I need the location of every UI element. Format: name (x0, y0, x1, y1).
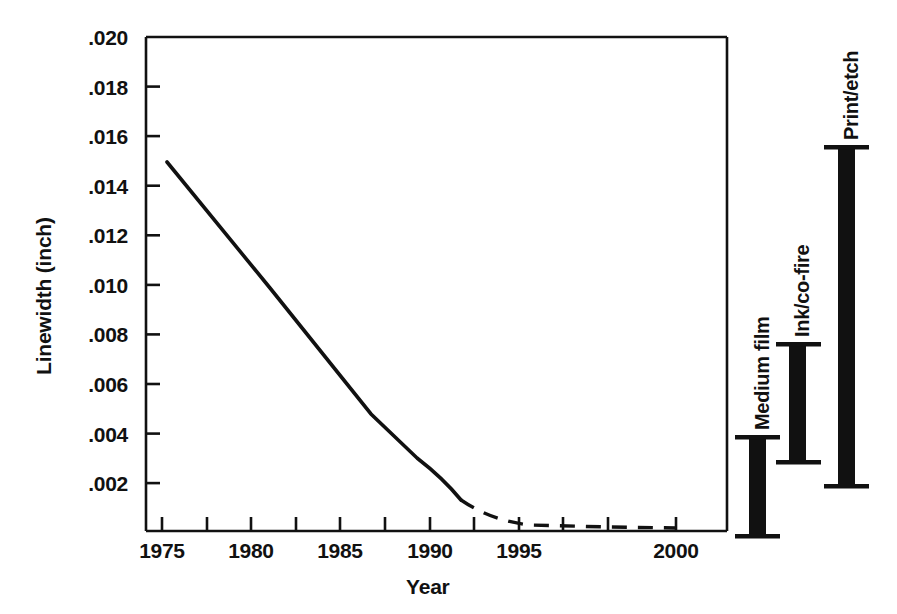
range-bar-label-medium-film: Medium film (751, 317, 774, 430)
y-tick-label: .002 (56, 472, 128, 496)
range-bar-label-ink-co-fire: Ink/co-fire (791, 245, 814, 337)
y-axis-title: Linewidth (inch) (32, 217, 56, 375)
x-axis-ticks (162, 517, 676, 531)
x-tick-label: 1990 (395, 539, 465, 563)
y-tick-label: .004 (56, 423, 128, 447)
y-tick-label: .008 (56, 323, 128, 347)
x-axis-title: Year (406, 575, 450, 599)
x-tick-label: 1995 (484, 539, 554, 563)
x-tick-label: 2000 (641, 539, 711, 563)
chart-canvas (0, 0, 897, 614)
x-tick-label: 1980 (216, 539, 286, 563)
plot-frame (146, 37, 727, 531)
y-tick-label: .020 (56, 26, 128, 50)
series-dashed-line (461, 500, 676, 528)
y-tick-label: .006 (56, 373, 128, 397)
range-bar-print-etch (824, 145, 869, 489)
range-bar-ink-co-fire (776, 342, 821, 465)
y-tick-label: .016 (56, 125, 128, 149)
x-tick-label: 1985 (305, 539, 375, 563)
y-axis-ticks (146, 87, 160, 484)
range-bar-label-print-etch: Print/etch (840, 51, 863, 140)
y-tick-label: .010 (56, 274, 128, 298)
chart-figure: .020 .018 .016 .014 .012 .010 .008 .006 … (0, 0, 897, 614)
range-bar-medium-film (735, 435, 780, 539)
y-tick-label: .012 (56, 224, 128, 248)
series-solid-line (167, 162, 461, 500)
y-tick-label: .014 (56, 175, 128, 199)
y-tick-label: .018 (56, 76, 128, 100)
x-tick-label: 1975 (127, 539, 197, 563)
